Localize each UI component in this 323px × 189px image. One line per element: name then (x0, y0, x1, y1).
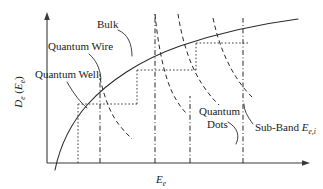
label-bulk: Bulk (97, 18, 119, 30)
density-of-states-figure: Bulk Quantum Wire Quantum Well Quantum D… (0, 0, 323, 189)
y-axis-label-main: D (12, 100, 24, 109)
label-quantum-dots-line1: Quantum (199, 105, 240, 117)
label-quantum-dots-line2: Dots (207, 118, 228, 130)
sub-band-subscript: e,i (308, 127, 315, 136)
figure-background (0, 0, 323, 189)
sub-band-text: Sub-Band (255, 121, 302, 133)
figure-canvas: Bulk Quantum Wire Quantum Well Quantum D… (0, 0, 323, 189)
label-quantum-wire: Quantum Wire (48, 40, 113, 52)
label-quantum-well: Quantum Well (35, 68, 99, 80)
y-axis-label-paren-close: ) (12, 76, 25, 80)
